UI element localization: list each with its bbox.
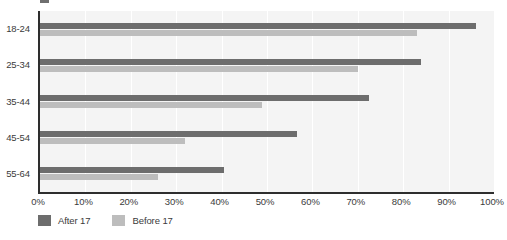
- y-axis-label-45-54: 45-54: [6, 132, 30, 143]
- legend-item[interactable]: After 17: [38, 215, 90, 226]
- y-axis-label-55-64: 55-64: [6, 168, 30, 179]
- x-axis-tick-label: 80%: [392, 196, 411, 207]
- gridline: [494, 11, 495, 192]
- y-axis-label-18-24: 18-24: [6, 23, 30, 34]
- bar: [40, 167, 224, 173]
- bar: [40, 59, 421, 65]
- x-axis-tick-labels: 0%10%20%30%40%50%60%70%80%90%100%: [38, 196, 492, 210]
- legend-item[interactable]: Before 17: [112, 215, 172, 226]
- bar-group: [40, 47, 494, 83]
- x-axis-tick-label: 10%: [74, 196, 93, 207]
- bar-fill: [40, 23, 476, 29]
- bar-chart: 18-2425-3435-4445-5455-64 0%10%20%30%40%…: [0, 0, 507, 240]
- legend-swatch-before-17: [112, 215, 125, 226]
- bar-fill: [40, 30, 417, 36]
- bar: [40, 23, 476, 29]
- bar: [40, 95, 369, 101]
- legend-label: After 17: [58, 215, 90, 226]
- bar-group: [40, 120, 494, 156]
- bar-fill: [40, 174, 158, 180]
- bar: [40, 66, 358, 72]
- bar: [40, 131, 297, 137]
- bar-fill: [40, 167, 224, 173]
- plot-area: [38, 11, 494, 194]
- x-axis-tick-label: 20%: [119, 196, 138, 207]
- bar-fill: [40, 131, 297, 137]
- x-axis-tick-label: 50%: [256, 196, 275, 207]
- y-axis-label-25-34: 25-34: [6, 59, 30, 70]
- legend: After 17Before 17: [38, 215, 173, 226]
- bar-group: [40, 11, 494, 47]
- bar: [40, 138, 185, 144]
- x-axis-tick-label: 90%: [437, 196, 456, 207]
- bar-group: [40, 156, 494, 192]
- x-axis-tick-label: 60%: [301, 196, 320, 207]
- x-axis-tick-label: 100%: [480, 196, 504, 207]
- bar: [40, 174, 158, 180]
- y-axis-label-35-44: 35-44: [6, 96, 30, 107]
- x-axis-tick-label: 40%: [210, 196, 229, 207]
- x-axis-tick-label: 70%: [346, 196, 365, 207]
- bar-fill: [40, 59, 421, 65]
- bar: [40, 102, 262, 108]
- bar-fill: [40, 102, 262, 108]
- legend-swatch-after-17: [38, 215, 51, 226]
- clipped-top-marker: [40, 0, 49, 3]
- x-axis-tick-label: 0%: [31, 196, 45, 207]
- legend-label: Before 17: [132, 215, 172, 226]
- bar-group: [40, 83, 494, 119]
- bar-fill: [40, 95, 369, 101]
- bar-rows: [40, 11, 494, 192]
- bar: [40, 30, 417, 36]
- bar-fill: [40, 66, 358, 72]
- x-axis-tick-label: 30%: [165, 196, 184, 207]
- y-axis-labels: 18-2425-3435-4445-5455-64: [0, 11, 34, 192]
- bar-fill: [40, 138, 185, 144]
